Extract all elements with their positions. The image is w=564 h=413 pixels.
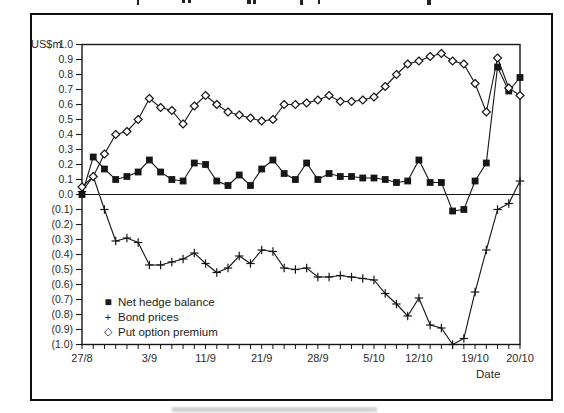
svg-text:(0.8): (0.8) <box>51 308 73 320</box>
svg-text:0.7: 0.7 <box>58 83 73 95</box>
svg-text:(0.3): (0.3) <box>51 233 73 245</box>
svg-text:12/10: 12/10 <box>405 352 433 364</box>
legend-item-put-option-premium: ◇ Put option premium <box>100 324 218 339</box>
svg-text:(0.4): (0.4) <box>51 248 73 260</box>
svg-text:3/9: 3/9 <box>142 352 157 364</box>
svg-text:0.8: 0.8 <box>58 68 73 80</box>
open-diamond-icon: ◇ <box>100 325 116 338</box>
chart-canvas: 1.00.90.80.70.60.50.40.30.20.10.0(0.1)(0… <box>0 0 564 413</box>
svg-text:0.6: 0.6 <box>58 98 73 110</box>
svg-text:(0.6): (0.6) <box>51 278 73 290</box>
svg-text:20/10: 20/10 <box>506 352 534 364</box>
legend-label: Bond prices <box>116 311 179 323</box>
svg-text:0.1: 0.1 <box>58 173 73 185</box>
svg-text:(0.7): (0.7) <box>51 293 73 305</box>
svg-text:5/10: 5/10 <box>363 352 384 364</box>
svg-text:28/9: 28/9 <box>307 352 328 364</box>
legend-label: Put option premium <box>116 326 218 338</box>
svg-text:(0.2): (0.2) <box>51 218 73 230</box>
svg-text:0.0: 0.0 <box>58 188 73 200</box>
svg-text:0.3: 0.3 <box>58 143 73 155</box>
svg-text:0.4: 0.4 <box>58 128 73 140</box>
legend-item-bond-prices: + Bond prices <box>100 309 218 324</box>
svg-text:19/10: 19/10 <box>461 352 489 364</box>
plus-marker-icon: + <box>100 311 116 323</box>
svg-text:27/8: 27/8 <box>71 352 92 364</box>
x-axis-title: Date <box>476 368 500 380</box>
legend-label: Net hedge balance <box>116 296 215 308</box>
svg-text:0.9: 0.9 <box>58 53 73 65</box>
y-axis-unit-label: US$m <box>31 38 62 50</box>
svg-text:(0.1): (0.1) <box>51 203 73 215</box>
svg-text:21/9: 21/9 <box>251 352 272 364</box>
svg-text:0.5: 0.5 <box>58 113 73 125</box>
legend-item-net-hedge-balance: ■ Net hedge balance <box>100 294 218 309</box>
legend: ■ Net hedge balance + Bond prices ◇ Put … <box>100 294 218 339</box>
svg-text:(0.9): (0.9) <box>51 323 73 335</box>
filled-square-icon: ■ <box>100 295 116 309</box>
svg-text:(0.5): (0.5) <box>51 263 73 275</box>
svg-text:0.2: 0.2 <box>58 158 73 170</box>
svg-text:11/9: 11/9 <box>195 352 216 364</box>
svg-text:(1.0): (1.0) <box>51 338 73 350</box>
faint-cropped-text-band <box>172 407 377 412</box>
